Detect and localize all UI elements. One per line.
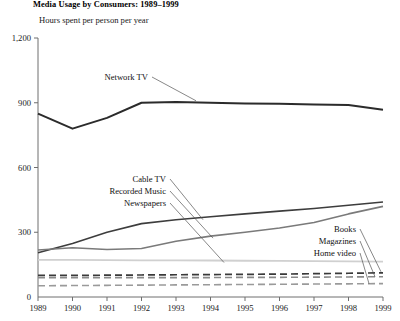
- series-line-newspapers: [38, 260, 383, 262]
- y-axis-tick-600: 600: [18, 163, 31, 173]
- leader-line-home-video: [360, 253, 369, 284]
- y-axis-tick-300: 300: [18, 227, 31, 237]
- plot-area: 03006009001,2001989199019911992199319941…: [0, 0, 400, 321]
- y-axis-tick-900: 900: [18, 98, 31, 108]
- leader-line-cable-tv: [170, 179, 203, 220]
- x-axis-tick-1995: 1995: [236, 303, 253, 313]
- x-axis-tick-1996: 1996: [271, 303, 289, 313]
- series-label-network-tv: Network TV: [104, 72, 148, 82]
- x-axis-tick-1990: 1990: [64, 303, 81, 313]
- x-axis-tick-1998: 1998: [340, 303, 357, 313]
- x-axis-tick-1994: 1994: [202, 303, 220, 313]
- chart-figure: Media Usage by Consumers: 1989–1999 Hour…: [0, 0, 400, 321]
- x-axis-tick-1992: 1992: [133, 303, 150, 313]
- axes: 03006009001,2001989199019911992199319941…: [12, 33, 392, 313]
- x-axis-tick-1989: 1989: [29, 303, 46, 313]
- y-axis-tick-0: 0: [27, 292, 31, 302]
- x-axis-tick-1997: 1997: [305, 303, 323, 313]
- leader-line-magazines: [360, 241, 375, 277]
- leader-line-network-tv: [152, 77, 196, 101]
- series-lines: [38, 102, 383, 286]
- x-axis-tick-1993: 1993: [167, 303, 184, 313]
- series-line-home-video: [38, 284, 383, 286]
- y-axis-tick-1200: 1,200: [12, 33, 31, 43]
- series-label-recorded-music: Recorded Music: [109, 186, 166, 196]
- leader-line-recorded-music: [170, 191, 213, 238]
- series-line-network-tv: [38, 102, 383, 129]
- series-line-magazines: [38, 277, 383, 278]
- x-axis-tick-1991: 1991: [98, 303, 115, 313]
- series-label-cable-tv: Cable TV: [133, 174, 167, 184]
- annotation-labels: Network TVCable TVRecorded MusicNewspape…: [104, 72, 356, 258]
- series-label-newspapers: Newspapers: [124, 198, 167, 208]
- series-label-home-video: Home video: [314, 248, 356, 258]
- x-axis-tick-1999: 1999: [374, 303, 391, 313]
- series-label-magazines: Magazines: [319, 236, 357, 246]
- series-label-books: Books: [334, 224, 357, 234]
- series-line-books: [38, 273, 383, 276]
